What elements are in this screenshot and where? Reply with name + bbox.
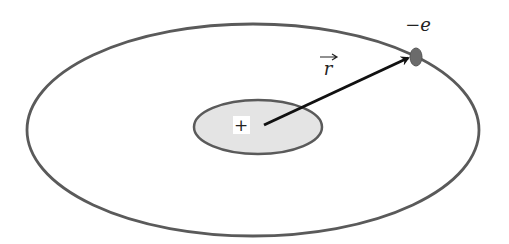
nucleus-charge-label: +	[234, 115, 248, 135]
atom-diagram: + r −e	[0, 0, 509, 244]
position-vector-arrow	[264, 58, 408, 125]
vector-r-label: r	[324, 58, 334, 79]
electron	[410, 48, 422, 66]
electron-charge-label: −e	[405, 14, 431, 35]
